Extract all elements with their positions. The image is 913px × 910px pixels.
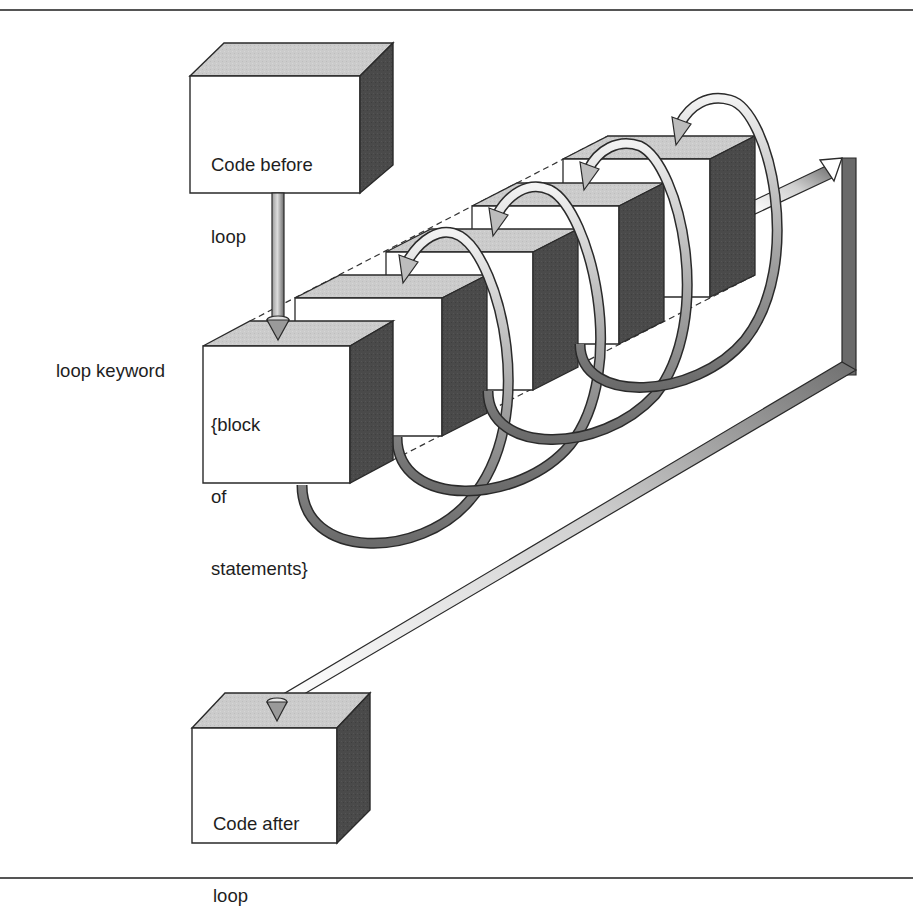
- code-before-label: Code before loop: [211, 105, 313, 273]
- code-after-label: Code after loop: [213, 764, 299, 910]
- loop-keyword-label: loop keyword: [56, 359, 165, 383]
- loop-block-label: {block of statements}: [211, 365, 308, 605]
